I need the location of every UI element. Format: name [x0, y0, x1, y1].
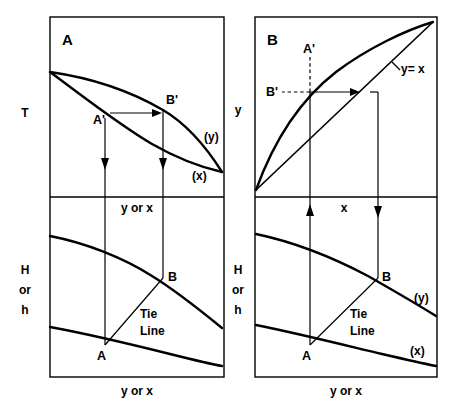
panel-a-point-a-label: A	[97, 349, 106, 363]
panel-a-curve-y	[50, 72, 222, 172]
panel-a-horizontal-arrowhead	[152, 109, 162, 117]
panel-a-upper-y-axis-label: T	[21, 106, 29, 120]
panel-b-lower-curve-y-label: (y)	[414, 291, 429, 305]
panel-b-label: B	[267, 31, 278, 48]
diagram-svg: A A' B' (y) (x) y or x	[0, 0, 452, 412]
panel-a-tie-line-label-2: Line	[140, 324, 165, 338]
panel-b-lower-curve-x-label: (x)	[410, 344, 425, 358]
panel-b-diagonal-leader	[392, 62, 400, 70]
panel-a-vertical-arrowhead-right	[159, 158, 167, 170]
panel-b-lower-curve-x	[256, 325, 436, 366]
panel-b-point-a-prime-label: A'	[303, 42, 315, 56]
panel-b-tie-line-label-2: Line	[350, 324, 375, 338]
panel-b-lower-curve-y	[256, 234, 436, 316]
panel-b-lower-y-axis-label-3: h	[234, 303, 241, 317]
panel-b-middle-strip-label: x	[341, 201, 348, 215]
panel-a-lower-y-axis-label-3: h	[21, 303, 28, 317]
panel-b-point-b-prime-label: B'	[266, 85, 278, 99]
panel-a-vertical-arrowhead-left	[101, 158, 109, 170]
panel-b-upper-y-axis-label: y	[235, 103, 242, 117]
panel-b-lower-y-axis-label-2: or	[232, 283, 244, 297]
panel-b-step-arrowhead	[350, 88, 360, 96]
panel-a-lower-curve-lower	[50, 327, 222, 366]
panel-b-lower-y-axis-label-1: H	[234, 263, 243, 277]
panel-a: A A' B' (y) (x) y or x	[19, 17, 224, 398]
panel-b-diagonal-label: y= x	[401, 62, 425, 76]
panel-a-lower-y-axis-label-1: H	[21, 263, 30, 277]
panel-b-tie-line-label-1: Tie	[350, 307, 367, 321]
panel-b: B A' B' y= x x	[232, 17, 437, 398]
panel-b-diagonal-line	[256, 22, 433, 190]
panel-b-vertical-arrowhead-left	[306, 204, 314, 216]
panel-b-point-b-label: B	[382, 270, 391, 284]
panel-a-tie-line-label-1: Tie	[140, 307, 157, 321]
panel-a-middle-strip-label: y or x	[121, 201, 153, 215]
panel-a-point-b-prime-label: B'	[166, 93, 178, 107]
figure-canvas: A A' B' (y) (x) y or x	[0, 0, 452, 412]
panel-a-lower-y-axis-label-2: or	[19, 283, 31, 297]
panel-a-x-axis-label: y or x	[121, 384, 153, 398]
panel-b-x-axis-label: y or x	[330, 384, 362, 398]
panel-a-point-b-label: B	[168, 270, 177, 284]
panel-b-vertical-arrowhead-right	[374, 206, 382, 218]
panel-a-point-a-prime-label: A'	[93, 113, 105, 127]
panel-a-label: A	[62, 31, 73, 48]
panel-b-point-a-label: A	[302, 349, 311, 363]
panel-a-curve-x	[50, 72, 222, 172]
panel-a-curve-y-label: (y)	[204, 130, 219, 144]
panel-a-curve-x-label: (x)	[192, 169, 207, 183]
panel-a-lower-curve-upper	[50, 236, 222, 328]
